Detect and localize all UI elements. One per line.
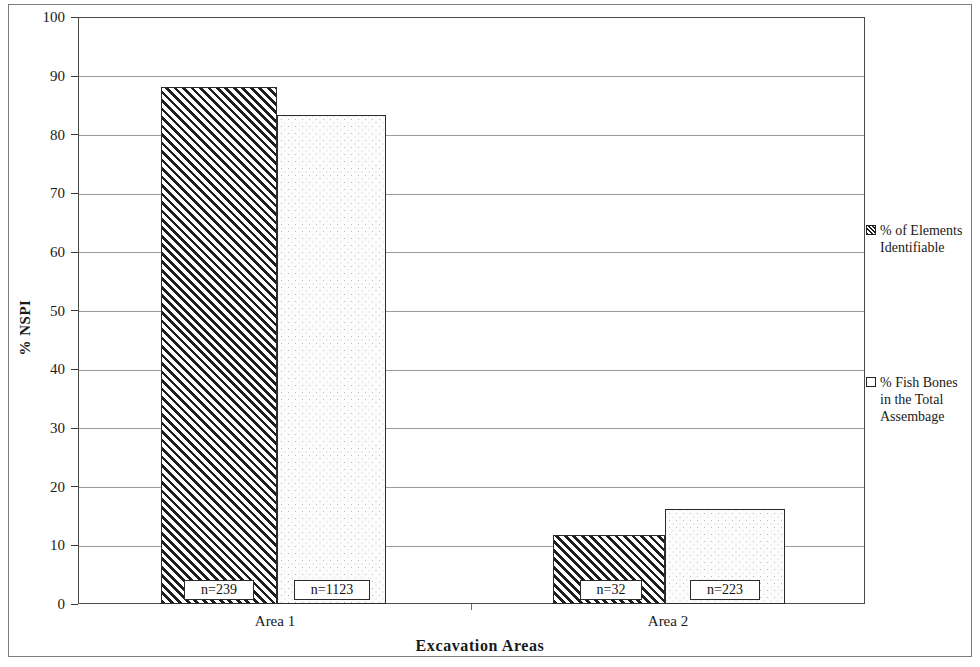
hatched-square-icon [866, 225, 876, 235]
data-label-area1-elements: n=239 [184, 580, 254, 600]
y-tick-mark-50 [71, 310, 78, 311]
y-tick-label-10: 10 [25, 538, 65, 553]
legend-label-line-1: % Fish Bones [866, 374, 978, 391]
y-tick-mark-80 [71, 134, 78, 135]
chart-figure: % NSPI 100 90 80 70 60 50 40 30 20 10 0 [0, 0, 980, 667]
y-tick-label-100: 100 [25, 10, 65, 25]
legend-item-elements-identifiable: % of Elements Identifiable [866, 222, 978, 256]
y-tick-label-20: 20 [25, 480, 65, 495]
data-label-area2-fish: n=223 [690, 580, 760, 600]
open-square-icon [866, 377, 876, 387]
data-label-area2-elements: n=32 [580, 580, 642, 600]
y-tick-mark-0 [71, 604, 78, 605]
gridline-90 [79, 76, 864, 77]
y-tick-mark-20 [71, 486, 78, 487]
y-tick-mark-70 [71, 193, 78, 194]
y-tick-label-70: 70 [25, 186, 65, 201]
y-tick-label-50: 50 [25, 304, 65, 319]
y-tick-mark-10 [71, 545, 78, 546]
legend-label-line-2: in the Total [866, 391, 978, 408]
data-label-area1-fish: n=1123 [294, 580, 370, 600]
x-axis-title: Excavation Areas [0, 637, 960, 655]
y-tick-label-90: 90 [25, 69, 65, 84]
y-tick-mark-90 [71, 76, 78, 77]
y-tick-label-0: 0 [25, 597, 65, 612]
y-tick-mark-100 [71, 17, 78, 18]
y-tick-mark-30 [71, 428, 78, 429]
x-category-label-area-1: Area 1 [195, 613, 355, 630]
y-tick-label-40: 40 [25, 362, 65, 377]
chart-legend: % of Elements Identifiable % Fish Bones … [866, 222, 978, 425]
bar-area1-fish-bones [277, 115, 386, 604]
x-tick-mark-divider [471, 604, 472, 610]
legend-item-fish-bones: % Fish Bones in the Total Assembage [866, 374, 978, 425]
y-tick-label-80: 80 [25, 128, 65, 143]
plot-area: n=239 n=1123 n=32 n=223 [78, 17, 865, 604]
y-tick-mark-60 [71, 252, 78, 253]
y-tick-label-60: 60 [25, 245, 65, 260]
legend-label-line-1: % of Elements [866, 222, 978, 239]
bar-area1-elements-identifiable [161, 87, 277, 604]
y-tick-mark-40 [71, 369, 78, 370]
legend-label-line-2: Identifiable [866, 239, 978, 256]
y-tick-label-30: 30 [25, 421, 65, 436]
x-category-label-area-2: Area 2 [588, 613, 748, 630]
legend-label-line-3: Assembage [866, 408, 978, 425]
